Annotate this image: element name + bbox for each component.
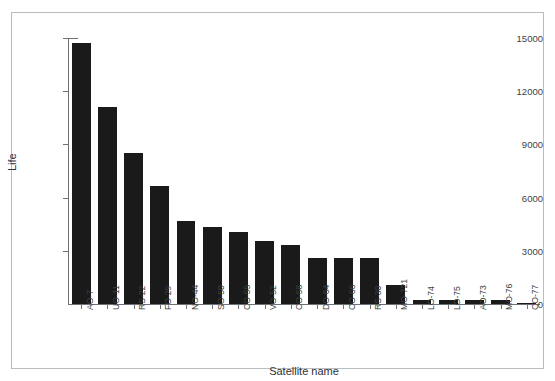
x-axis-tick-label: AO-7 bbox=[85, 290, 95, 310]
plot-frame: 03000600090001200015000 Life AO-7UO-11RS… bbox=[11, 12, 544, 369]
bar bbox=[465, 38, 484, 304]
bar-rect bbox=[98, 107, 117, 304]
x-axis-tick-label: UO-11 bbox=[111, 285, 121, 310]
bar bbox=[177, 38, 196, 304]
chart-figure: 03000600090001200015000 Life AO-7UO-11RS… bbox=[0, 0, 555, 381]
x-axis-tick-mark bbox=[474, 305, 475, 309]
bar bbox=[281, 38, 300, 304]
x-axis-tick-label: CO-58 bbox=[294, 285, 304, 310]
bar bbox=[334, 38, 353, 304]
bar bbox=[255, 38, 274, 304]
x-axis-tick-mark bbox=[448, 305, 449, 309]
bar bbox=[229, 38, 248, 304]
x-axis-tick-label: MO-76 bbox=[504, 284, 514, 310]
x-axis-tick-label: CO-55 bbox=[242, 285, 252, 310]
x-axis-tick-label: RS-22 bbox=[137, 286, 147, 310]
bar bbox=[150, 38, 169, 304]
bar-series bbox=[68, 38, 540, 304]
x-axis-tick-mark bbox=[527, 305, 528, 309]
x-axis-tick-mark bbox=[291, 305, 292, 309]
x-axis-tick-mark bbox=[238, 305, 239, 309]
bar bbox=[360, 38, 379, 304]
x-axis-tick-label: AO-73 bbox=[478, 285, 488, 310]
y-axis-title: Life bbox=[6, 153, 18, 171]
x-axis-tick-mark bbox=[370, 305, 371, 309]
bar bbox=[386, 38, 405, 304]
x-axis-title: Satellite name bbox=[68, 365, 540, 377]
bar bbox=[308, 38, 327, 304]
x-axis-tick-mark bbox=[317, 305, 318, 309]
x-axis-tick-mark bbox=[212, 305, 213, 309]
x-axis-tick-mark bbox=[107, 305, 108, 309]
x-axis-tick-label: CO-66 bbox=[347, 285, 357, 310]
x-axis-tick-mark bbox=[422, 305, 423, 309]
x-axis-tick-mark bbox=[343, 305, 344, 309]
x-axis-tick-mark bbox=[81, 305, 82, 309]
x-axis-tick-mark bbox=[160, 305, 161, 309]
x-axis-tick-mark bbox=[265, 305, 266, 309]
x-axis-tick-mark bbox=[186, 305, 187, 309]
bar bbox=[72, 38, 91, 304]
x-axis-tick-mark bbox=[396, 305, 397, 309]
bar bbox=[439, 38, 458, 304]
bar-rect bbox=[72, 43, 91, 304]
bar bbox=[203, 38, 222, 304]
bar bbox=[98, 38, 117, 304]
bar bbox=[413, 38, 432, 304]
x-axis-tick-label: RS-30 bbox=[373, 286, 383, 310]
x-axis-tick-mark bbox=[501, 305, 502, 309]
x-axis-tick-label: FO-29 bbox=[163, 286, 173, 310]
bar-rect bbox=[124, 153, 143, 304]
x-axis-tick-label: VO-52 bbox=[268, 285, 278, 310]
x-axis-tick-label: NO-44 bbox=[190, 285, 200, 310]
bar bbox=[124, 38, 143, 304]
x-axis-tick-label: SO-50 bbox=[216, 285, 226, 310]
bar bbox=[517, 38, 536, 304]
cropped-header-text bbox=[0, 0, 555, 10]
x-axis-tick-label: LO-75 bbox=[452, 286, 462, 310]
x-axis-tick-label: MO-721 bbox=[399, 279, 409, 310]
bar bbox=[491, 38, 510, 304]
x-axis-tick-label: LO-74 bbox=[426, 286, 436, 310]
x-axis-tick-label: DO-64 bbox=[321, 285, 331, 310]
x-axis-tick-label: CO-77 bbox=[530, 285, 540, 310]
x-axis-tick-mark bbox=[134, 305, 135, 309]
